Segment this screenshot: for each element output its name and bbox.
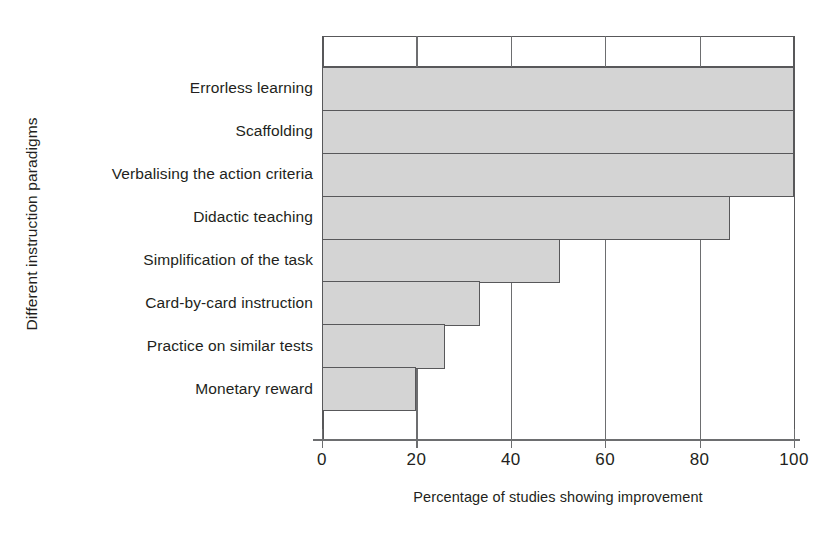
y-axis-tick-label: Card-by-card instruction [40,295,313,311]
gridline [794,36,795,440]
x-axis-tick-upper [322,429,323,440]
y-axis-tick-label: Didactic teaching [40,209,313,225]
y-axis-title: Different instruction paradigms [23,74,41,374]
x-axis-tick [511,440,512,448]
y-axis-tick-labels: Errorless learningScaffoldingVerbalising… [40,67,313,410]
bar [322,324,445,368]
x-axis-tick-label: 80 [660,450,740,470]
x-axis-tick-label: 0 [282,450,362,470]
x-axis-line [313,439,800,441]
plot-area: 020406080100 [322,36,794,440]
x-axis-tick-upper [700,429,701,440]
x-axis-tick-label: 40 [471,450,551,470]
y-axis-tick-label: Monetary reward [40,381,313,397]
bar [322,67,794,111]
bar [322,153,794,197]
x-axis-tick-upper [511,429,512,440]
bar [322,110,794,154]
bar-series [322,67,794,410]
y-axis-tick-label: Verbalising the action criteria [40,166,313,182]
bar [322,367,416,411]
x-axis-tick [416,440,417,448]
x-axis-tick-label: 100 [754,450,834,470]
x-axis-title: Percentage of studies showing improvemen… [322,489,794,505]
x-axis-tick-upper [605,429,606,440]
x-axis-tick [605,440,606,448]
x-axis-tick-upper [794,429,795,440]
bar [322,239,560,283]
x-axis-tick-upper [416,429,417,440]
x-axis-tick-label: 20 [376,450,456,470]
bar [322,281,480,325]
bar-chart-figure: Different instruction paradigms Errorles… [0,0,836,540]
y-axis-tick-label: Simplification of the task [40,252,313,268]
bar [322,196,730,240]
y-axis-tick-label: Errorless learning [40,80,313,96]
y-axis-tick-label: Practice on similar tests [40,338,313,354]
x-axis-tick [794,440,795,448]
x-axis-tick [322,440,323,448]
plot-header-strip [322,36,794,67]
x-axis-tick [700,440,701,448]
y-axis-tick-label: Scaffolding [40,123,313,139]
x-axis-tick-label: 60 [565,450,645,470]
